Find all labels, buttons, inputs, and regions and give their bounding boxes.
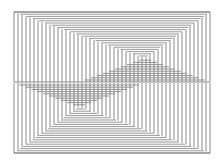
line-pattern-artwork [0,0,223,165]
